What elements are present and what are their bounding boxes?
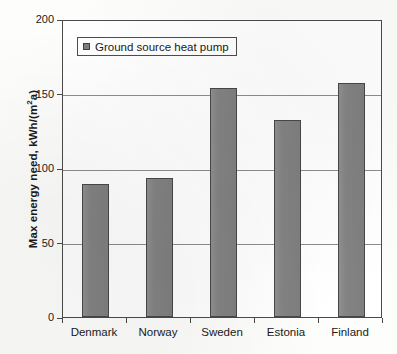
bar-finland xyxy=(338,83,365,317)
bar-norway xyxy=(146,178,173,317)
x-tick-label-finland: Finland xyxy=(310,325,390,339)
plot-area xyxy=(62,20,382,318)
y-tick-label-0: 0 xyxy=(14,312,54,323)
legend-swatch-icon xyxy=(83,43,90,50)
y-axis-title-superscript: 2 xyxy=(25,100,34,105)
x-tick-2 xyxy=(190,318,191,323)
legend-label: Ground source heat pump xyxy=(95,41,229,53)
chart-legend: Ground source heat pump xyxy=(77,37,237,56)
x-tick-5 xyxy=(382,318,383,323)
bar-sweden xyxy=(210,88,237,317)
y-tick-label-150: 150 xyxy=(14,89,54,100)
y-tick-label-200: 200 xyxy=(14,14,54,25)
x-tick-3 xyxy=(254,318,255,323)
x-tick-1 xyxy=(126,318,127,323)
y-axis-title-main: Max energy need, kWh/(m xyxy=(27,105,39,249)
bar-chart-figure: Max energy need, kWh/(m2a) 050100150200 … xyxy=(0,0,397,354)
x-tick-4 xyxy=(318,318,319,323)
bar-estonia xyxy=(274,120,301,317)
bar-denmark xyxy=(82,184,109,317)
y-tick-label-100: 100 xyxy=(14,163,54,174)
y-tick-label-50: 50 xyxy=(14,238,54,249)
x-tick-0 xyxy=(62,318,63,323)
